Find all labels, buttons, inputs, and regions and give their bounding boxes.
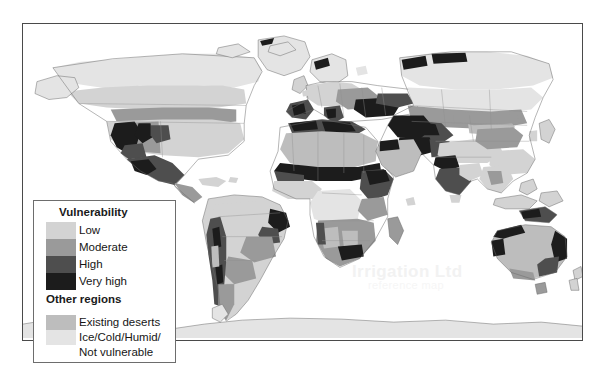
other-regions-swatch-stack (46, 315, 76, 345)
swatch-moderate (46, 239, 76, 256)
figure-root: .c-low { fill:#d3d3d3; } .c-mod { fill:#… (0, 0, 600, 378)
legend-label-not-vulnerable: Not vulnerable (79, 345, 153, 360)
legend-label-existing-deserts: Existing deserts (79, 315, 160, 330)
swatch-very-high (46, 273, 76, 290)
legend-label-moderate: Moderate (79, 239, 128, 256)
legend-label-ice-cold-humid: Ice/Cold/Humid/ (79, 330, 161, 345)
vulnerability-swatch-stack (46, 222, 76, 290)
legend-title-other-regions: Other regions (46, 293, 121, 305)
swatch-low (46, 222, 76, 239)
swatch-ice-cold-humid (46, 330, 76, 345)
legend-label-very-high: Very high (79, 273, 127, 290)
map-legend: Vulnerability Low Moderate High Very hig… (33, 200, 176, 363)
legend-title-vulnerability: Vulnerability (59, 206, 128, 218)
swatch-high (46, 256, 76, 273)
swatch-existing-deserts (46, 315, 76, 330)
legend-label-high: High (79, 256, 103, 273)
legend-label-low: Low (79, 222, 100, 239)
